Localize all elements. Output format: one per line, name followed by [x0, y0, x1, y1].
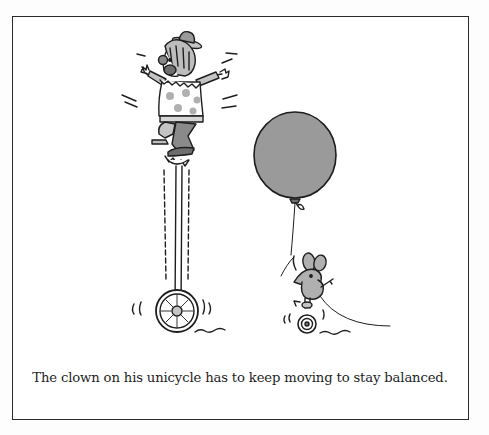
page: The clown on his unicycle has to keep mo… [0, 0, 489, 435]
balloon-figure [254, 112, 336, 255]
clown-figure [122, 32, 237, 166]
tall-unicycle-figure [133, 166, 226, 332]
mouse-figure [281, 252, 390, 334]
figure-caption: The clown on his unicycle has to keep mo… [30, 370, 450, 385]
